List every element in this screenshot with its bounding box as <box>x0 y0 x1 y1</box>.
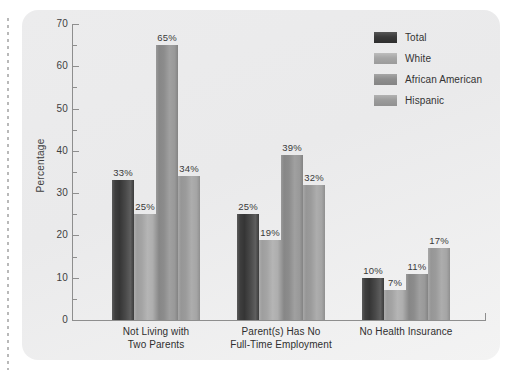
legend-item-label: Hispanic <box>405 95 444 106</box>
bar-1-1: 19% <box>259 240 281 320</box>
bar-fill <box>134 214 156 320</box>
legend-item-label: White <box>405 53 431 64</box>
bar-0-1: 25% <box>237 214 259 320</box>
x-axis-line <box>72 320 486 321</box>
x-axis-group-labels: Not Living withTwo ParentsParent(s) Has … <box>72 325 486 359</box>
y-axis-tick-label: 30 <box>24 187 68 198</box>
bar-value-label: 17% <box>429 235 449 246</box>
bar-0-2: 10% <box>362 278 384 320</box>
bar-value-label: 34% <box>179 163 199 174</box>
chart-panel: 010203040506070 Percentage 33%25%65%34%2… <box>22 10 500 360</box>
y-axis-tick-label: 20 <box>24 229 68 240</box>
legend-item-0: Total <box>374 27 494 48</box>
legend-swatch-icon <box>374 74 397 85</box>
bar-value-label: 39% <box>282 142 302 153</box>
bar-value-label: 11% <box>408 261 427 272</box>
bar-value-label: 10% <box>363 265 383 276</box>
y-axis-title: Percentage <box>35 126 46 206</box>
x-axis-label-line: No Health Insurance <box>326 325 486 338</box>
bar-value-label: 33% <box>113 167 133 178</box>
bar-value-label: 25% <box>238 201 258 212</box>
legend-swatch-icon <box>374 53 397 64</box>
bar-3-0: 34% <box>178 176 200 320</box>
page-edge-perforation <box>7 18 9 370</box>
bar-value-label: 25% <box>135 201 155 212</box>
legend-swatch-icon <box>374 95 397 106</box>
bar-fill <box>428 248 450 320</box>
y-axis-tick-label: 10 <box>24 272 68 283</box>
bar-1-2: 7% <box>384 290 406 320</box>
legend-item-label: Total <box>405 32 427 43</box>
bar-2-0: 65% <box>156 45 178 320</box>
legend-swatch-icon <box>374 32 397 43</box>
bar-fill <box>406 274 428 321</box>
y-axis-major-tick <box>72 320 79 321</box>
bar-fill <box>384 290 406 320</box>
y-axis-tick-label: 50 <box>24 103 68 114</box>
legend-item-label: African American <box>405 74 482 85</box>
legend-item-2: African American <box>374 69 494 90</box>
bar-0-0: 33% <box>112 180 134 320</box>
plot-area: 010203040506070 Percentage 33%25%65%34%2… <box>22 10 500 360</box>
bar-2-2: 11% <box>406 274 428 321</box>
y-axis-tick-label: 0 <box>24 314 68 325</box>
bar-value-label: 19% <box>260 227 280 238</box>
x-axis-label-group-2: No Health Insurance <box>326 325 486 338</box>
bar-1-0: 25% <box>134 214 156 320</box>
bar-fill <box>281 155 303 320</box>
bar-value-label: 32% <box>304 172 324 183</box>
bar-fill <box>156 45 178 320</box>
chart-legend: TotalWhiteAfrican AmericanHispanic <box>374 27 494 111</box>
bar-3-2: 17% <box>428 248 450 320</box>
bar-fill <box>112 180 134 320</box>
bar-3-1: 32% <box>303 185 325 320</box>
bar-value-label: 65% <box>157 32 177 43</box>
bar-fill <box>178 176 200 320</box>
bar-fill <box>303 185 325 320</box>
legend-item-3: Hispanic <box>374 90 494 111</box>
bar-fill <box>237 214 259 320</box>
bar-fill <box>259 240 281 320</box>
legend-item-1: White <box>374 48 494 69</box>
y-axis-tick-label: 40 <box>24 145 68 156</box>
bar-fill <box>362 278 384 320</box>
y-axis-tick-label: 70 <box>24 18 68 29</box>
x-axis-label-line: Full-Time Employment <box>201 338 361 351</box>
y-axis-tick-label: 60 <box>24 60 68 71</box>
bar-value-label: 7% <box>388 277 402 288</box>
bar-2-1: 39% <box>281 155 303 320</box>
